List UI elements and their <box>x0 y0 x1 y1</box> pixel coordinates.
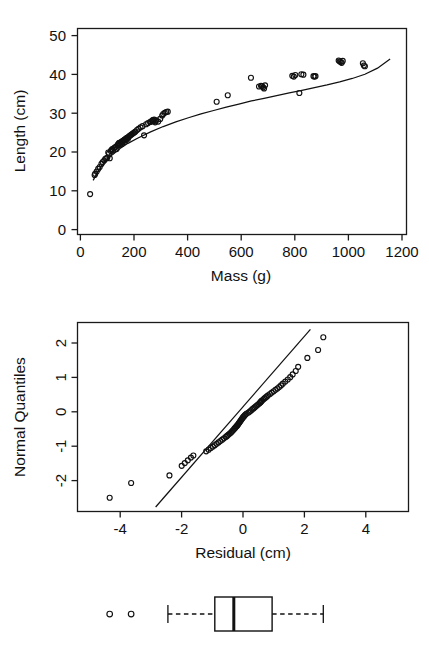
statistical-figure-svg: 50 40 30 20 10 0 0 200 400 600 800 <box>0 0 429 657</box>
fitted-curve <box>93 59 390 180</box>
ytick-label-50: 50 <box>49 27 66 44</box>
xtick-label-1200: 1200 <box>385 243 418 260</box>
qq-reference-line <box>156 329 311 507</box>
y-axis-title-normal-quantiles: Normal Quantiles <box>11 357 28 477</box>
qq-data-point <box>107 495 112 500</box>
boxplot-outlier <box>107 611 113 617</box>
qq-data-point <box>316 347 321 352</box>
ytick-label-40: 40 <box>49 66 66 83</box>
data-point <box>225 93 230 98</box>
data-point <box>88 192 93 197</box>
y-axis-title-length: Length (cm) <box>11 90 28 173</box>
qq-xtick-label-2: 2 <box>300 520 308 537</box>
qq-data-point <box>321 335 326 340</box>
xtick-label-0: 0 <box>76 243 84 260</box>
boxplot-outlier <box>128 611 134 617</box>
box-iqr <box>215 597 272 631</box>
qq-data-point <box>296 364 301 369</box>
boxplot-group <box>107 597 323 631</box>
xtick-label-200: 200 <box>121 243 146 260</box>
ytick-label-30: 30 <box>49 105 66 122</box>
qq-ytick-label-neg2: -2 <box>52 474 69 487</box>
xtick-label-400: 400 <box>175 243 200 260</box>
qq-xtick-label-neg4: -4 <box>114 520 127 537</box>
panel-normal-qq: 2 1 0 -1 -2 -4 -2 0 2 4 Residual (cm) No <box>11 323 409 562</box>
qq-xtick-label-0: 0 <box>239 520 247 537</box>
xtick-label-800: 800 <box>282 243 307 260</box>
qq-ytick-label-0: 0 <box>52 408 69 416</box>
ytick-label-20: 20 <box>49 143 66 160</box>
data-point <box>248 75 253 80</box>
qq-ytick-label-1: 1 <box>52 373 69 381</box>
qq-xtick-label-neg2: -2 <box>175 520 188 537</box>
qq-ytick-label-2: 2 <box>52 339 69 347</box>
scatter-points-group <box>88 58 368 197</box>
plot-frame-scatter <box>78 29 407 235</box>
qq-ytick-label-neg1: -1 <box>52 440 69 453</box>
qq-points-group <box>107 335 326 500</box>
qq-data-point <box>129 480 134 485</box>
panel-residual-boxplot <box>107 597 323 631</box>
xtick-label-600: 600 <box>229 243 254 260</box>
qq-xtick-label-4: 4 <box>362 520 370 537</box>
qq-data-point <box>167 473 172 478</box>
figure-container: 50 40 30 20 10 0 0 200 400 600 800 <box>0 0 429 657</box>
qq-data-point <box>305 355 310 360</box>
y-axis-qq: 2 1 0 -1 -2 <box>52 339 78 487</box>
ytick-label-0: 0 <box>58 221 66 238</box>
x-axis-qq: -4 -2 0 2 4 <box>114 512 370 538</box>
ytick-label-10: 10 <box>49 182 66 199</box>
x-axis-title-residual: Residual (cm) <box>195 544 291 561</box>
data-point <box>214 99 219 104</box>
x-axis-title-mass: Mass (g) <box>211 267 271 284</box>
xtick-label-1000: 1000 <box>332 243 365 260</box>
x-axis-scatter: 0 200 400 600 800 1000 1200 <box>76 235 418 261</box>
y-axis-scatter: 50 40 30 20 10 0 <box>49 27 77 238</box>
panel-mass-length-scatter: 50 40 30 20 10 0 0 200 400 600 800 <box>11 27 419 284</box>
